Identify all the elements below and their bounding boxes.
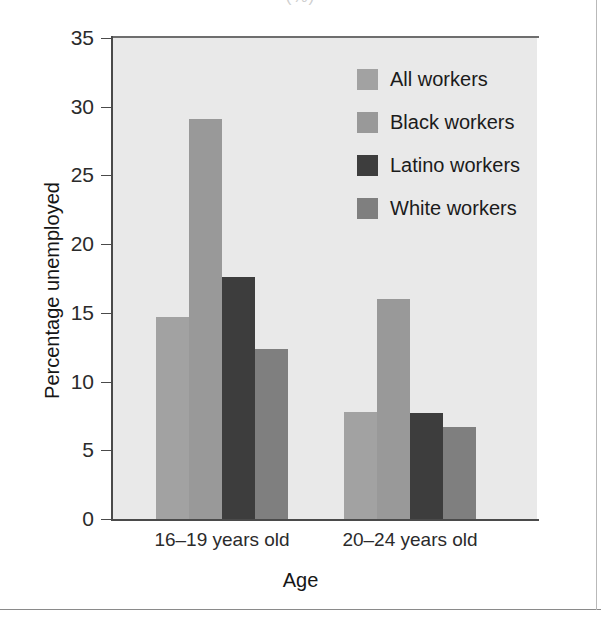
bar (189, 119, 222, 519)
legend: All workersBlack workersLatino workersWh… (357, 62, 520, 234)
y-axis-tick-5 (101, 450, 111, 451)
bar (156, 317, 189, 519)
y-axis-tick-label-wrap: 30 (36, 107, 94, 108)
x-axis-line (111, 519, 539, 521)
bar (410, 413, 443, 519)
legend-item-label: Latino workers (390, 155, 520, 175)
y-axis-tick-0 (101, 519, 111, 520)
legend-item: All workers (357, 62, 520, 96)
y-axis-tick-label: 5 (36, 439, 94, 460)
figure-right-rule (596, 0, 597, 610)
bar (222, 277, 255, 519)
legend-swatch-icon (357, 155, 378, 176)
y-axis-tick-15 (101, 313, 111, 314)
legend-item: White workers (357, 191, 520, 225)
bar (377, 299, 410, 519)
figure-root: (%) 05101520253035 16–19 years old20–24 … (0, 0, 601, 625)
y-axis-tick-10 (101, 382, 111, 383)
bar (443, 427, 476, 519)
y-axis-tick-label: 35 (36, 27, 94, 48)
y-axis-line (111, 36, 113, 521)
y-axis-tick-25 (101, 175, 111, 176)
legend-swatch-icon (357, 69, 378, 90)
x-axis-group-label: 16–19 years old (112, 529, 332, 551)
y-axis-tick-35 (101, 38, 111, 39)
y-axis-tick-30 (101, 107, 111, 108)
legend-swatch-icon (357, 112, 378, 133)
x-axis-title: Age (0, 569, 601, 592)
legend-swatch-icon (357, 198, 378, 219)
legend-item: Latino workers (357, 148, 520, 182)
y-axis-tick-label: 30 (36, 96, 94, 117)
y-axis-tick-label: 0 (36, 508, 94, 529)
bar (344, 412, 377, 519)
y-axis-tick-label-wrap: 35 (36, 38, 94, 39)
legend-item: Black workers (357, 105, 520, 139)
bar (255, 349, 288, 519)
y-axis-title: Percentage unemployed (41, 141, 64, 441)
legend-item-label: All workers (390, 69, 488, 89)
figure-bottom-rule (0, 609, 601, 610)
legend-item-label: Black workers (390, 112, 514, 132)
caption-fragment-text: (%) (0, 0, 601, 7)
plot-top-border (111, 36, 539, 38)
y-axis-tick-label-wrap: 5 (36, 450, 94, 451)
y-axis-tick-label-wrap: 0 (36, 519, 94, 520)
y-axis-tick-20 (101, 244, 111, 245)
x-axis-group-label: 20–24 years old (300, 529, 520, 551)
legend-item-label: White workers (390, 198, 517, 218)
